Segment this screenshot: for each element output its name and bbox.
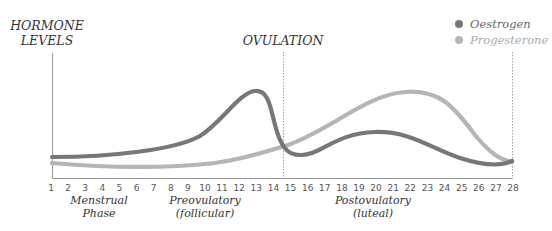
x-tick-label: 12 xyxy=(233,183,244,193)
x-tick-label: 22 xyxy=(405,183,416,193)
x-tick-label: 28 xyxy=(507,183,519,193)
oestrogen-legend-dot-icon xyxy=(455,20,463,28)
phase-postovulatory-line1: Postovulatory xyxy=(334,194,412,207)
x-tick-label: 20 xyxy=(370,183,382,193)
x-tick-label: 2 xyxy=(65,183,71,193)
x-tick-label: 23 xyxy=(422,183,433,193)
x-tick-label: 8 xyxy=(168,183,174,193)
legend-oestrogen-label: Oestrogen xyxy=(470,17,531,31)
y-axis-title-line2: LEVELS xyxy=(20,33,73,48)
x-tick-label: 4 xyxy=(99,183,105,193)
x-tick-label: 18 xyxy=(336,183,348,193)
x-tick-label: 25 xyxy=(456,183,467,193)
ovulation-label: OVULATION xyxy=(243,33,325,48)
y-axis-title-line1: HORMONE xyxy=(9,18,84,33)
x-tick-label: 3 xyxy=(82,183,88,193)
x-axis-ticks: 1234567891011121314151617181920212223242… xyxy=(48,183,519,193)
phase-labels: Menstrual Phase Preovulatory (follicular… xyxy=(69,194,412,220)
x-tick-label: 10 xyxy=(199,183,211,193)
phase-postovulatory-line2: (luteal) xyxy=(353,207,393,220)
phase-menstrual-line2: Phase xyxy=(81,207,116,220)
x-tick-label: 13 xyxy=(251,183,262,193)
x-tick-label: 6 xyxy=(134,183,140,193)
x-tick-label: 9 xyxy=(185,183,191,193)
x-tick-label: 5 xyxy=(117,183,123,193)
x-tick-label: 15 xyxy=(285,183,296,193)
phase-preovulatory-line2: (follicular) xyxy=(176,207,234,220)
x-tick-label: 17 xyxy=(319,183,330,193)
progesterone-legend-dot-icon xyxy=(455,36,463,44)
x-tick-label: 19 xyxy=(353,183,365,193)
x-tick-label: 1 xyxy=(48,183,54,193)
phase-preovulatory-line1: Preovulatory xyxy=(168,194,241,207)
x-tick-label: 24 xyxy=(439,183,451,193)
x-tick-label: 16 xyxy=(302,183,314,193)
legend-progesterone-label: Progesterone xyxy=(469,33,548,47)
x-tick-label: 21 xyxy=(387,183,398,193)
x-tick-label: 27 xyxy=(490,183,501,193)
x-tick-label: 7 xyxy=(151,183,157,193)
x-tick-label: 11 xyxy=(216,183,227,193)
legend: Oestrogen Progesterone xyxy=(455,17,548,47)
x-tick-label: 26 xyxy=(473,183,485,193)
x-tick-label: 14 xyxy=(268,183,280,193)
hormone-chart: HORMONE LEVELS OVULATION Oestrogen Proge… xyxy=(0,0,552,231)
phase-menstrual-line1: Menstrual xyxy=(69,194,128,207)
